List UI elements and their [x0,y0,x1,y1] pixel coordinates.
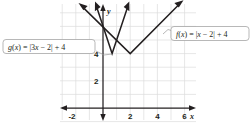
graph-figure: x y -2 2 4 6 4 2 g(x) = |3x − 2| + 4 f(x… [0,0,251,126]
plot-background [60,4,196,120]
y-axis-label: y [106,7,111,16]
x-tick-label-neg2: -2 [68,112,76,121]
f-label-callout: f(x) = |x − 2| + 4 [171,27,249,41]
x-tick-label-2: 2 [128,112,133,121]
x-tick-label-6: 6 [182,112,187,121]
x-axis-label: x [189,112,194,121]
y-tick-label-2: 2 [94,77,99,86]
x-tick-label-4: 4 [155,112,160,121]
g-label-callout: g(x) = |3x − 2| + 4 [3,40,95,54]
coordinate-plane-svg: x y -2 2 4 6 4 2 g(x) = |3x − 2| + 4 f(x… [0,0,251,126]
g-label-text: g(x) = |3x − 2| + 4 [8,43,65,52]
f-label-text: f(x) = |x − 2| + 4 [176,30,227,39]
